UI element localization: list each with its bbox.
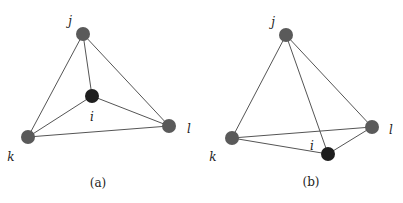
node-k: [21, 130, 35, 144]
node-l: [162, 119, 176, 133]
node-label-l: l: [389, 123, 393, 137]
node-j: [279, 28, 293, 42]
edge-j-i: [83, 34, 92, 96]
panel-b-caption: (b): [302, 175, 319, 189]
node-label-j: j: [65, 14, 72, 28]
edge-j-k: [232, 35, 286, 138]
node-label-k: k: [7, 150, 14, 164]
node-i: [321, 147, 335, 161]
edge-i-l: [92, 96, 169, 126]
edge-j-l: [286, 35, 372, 127]
panel-a-edges: [28, 34, 169, 137]
node-label-l: l: [187, 122, 191, 136]
node-i: [85, 89, 99, 103]
node-k: [225, 131, 239, 145]
node-label-i: i: [310, 139, 314, 153]
edge-j-l: [83, 34, 169, 126]
edge-i-l: [328, 127, 372, 154]
edge-j-k: [28, 34, 83, 137]
edge-i-k: [28, 96, 92, 137]
tetrahedron-diagram: jikl (a) jikl (b): [0, 0, 403, 203]
edge-k-l: [232, 127, 372, 138]
node-label-i: i: [90, 110, 94, 124]
panel-a: jikl (a): [7, 14, 191, 190]
node-label-j: j: [268, 15, 275, 29]
panel-a-labels: jikl: [7, 14, 191, 164]
node-j: [76, 27, 90, 41]
node-label-k: k: [209, 150, 216, 164]
node-l: [365, 120, 379, 134]
panel-a-caption: (a): [90, 176, 107, 190]
edge-k-l: [28, 126, 169, 137]
edge-j-i: [286, 35, 328, 154]
panel-b-edges: [232, 35, 372, 154]
panel-b: jikl (b): [209, 15, 393, 189]
